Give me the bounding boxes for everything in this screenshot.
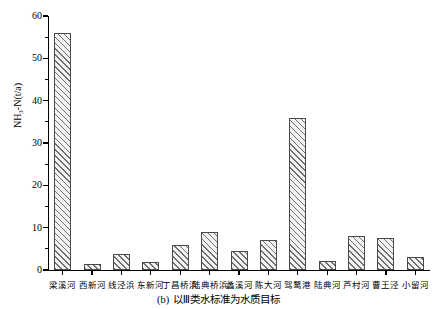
x-axis-tick — [415, 270, 416, 275]
bar — [260, 240, 277, 270]
bar — [142, 262, 159, 270]
x-axis-tick — [150, 270, 151, 275]
y-axis-tick-label: 50 — [2, 53, 42, 63]
x-axis-tick-label: 驾鹜港 — [284, 278, 311, 290]
x-axis-tick — [385, 270, 386, 275]
x-axis-tick-label: 东新河 — [137, 278, 164, 290]
y-axis-tick — [43, 15, 48, 16]
x-axis-tick — [238, 270, 239, 275]
x-axis-tick-label: 梁溪河 — [49, 278, 76, 290]
bar — [113, 254, 130, 270]
x-axis-tick-label: 小留河 — [402, 278, 429, 290]
y-axis-minor-tick — [45, 37, 48, 38]
x-axis-tick — [180, 270, 181, 275]
bar — [348, 236, 365, 270]
x-axis-tick-label: 曹王泾 — [372, 278, 399, 290]
y-axis-tick-label: 30 — [2, 138, 42, 148]
y-axis-tick — [43, 185, 48, 186]
x-axis-tick — [62, 270, 63, 275]
y-axis-tick-label: 40 — [2, 96, 42, 106]
x-axis-tick — [297, 270, 298, 275]
x-axis-tick-label: 陈大河 — [255, 278, 282, 290]
y-axis-line — [48, 16, 49, 270]
x-axis-tick — [209, 270, 210, 275]
y-axis-label-subscript: 3 — [17, 110, 25, 114]
bar — [201, 232, 218, 270]
y-axis-tick-label: 20 — [2, 180, 42, 190]
y-axis-tick-label: 0 — [2, 265, 42, 275]
y-axis-tick — [43, 100, 48, 101]
x-axis-tick — [268, 270, 269, 275]
y-axis-label-main: NH — [12, 114, 23, 128]
bar — [54, 33, 71, 270]
figure-caption-text: 以Ⅲ类水标准为水质目标 — [173, 293, 280, 305]
y-axis-minor-tick — [45, 121, 48, 122]
x-axis-tick — [121, 270, 122, 275]
bar — [231, 251, 248, 270]
y-axis-tick — [43, 142, 48, 143]
bar — [84, 264, 101, 270]
bar — [289, 118, 306, 270]
figure-caption: (b) 以Ⅲ类水标准为水质目标 — [0, 291, 437, 306]
y-axis-tick-label: 60 — [2, 11, 42, 21]
x-axis-tick-label: 陆典桥浜 — [192, 278, 228, 290]
y-axis-tick-label: 10 — [2, 223, 42, 233]
x-axis-tick — [327, 270, 328, 275]
bar — [377, 238, 394, 270]
bar-chart: NH3-N(t/a) 0102030405060 梁溪河西新河线泾浜东新河丁昌桥… — [0, 0, 437, 309]
plot-area: 0102030405060 梁溪河西新河线泾浜东新河丁昌桥浜陆典桥浜蠡溪河陈大河… — [48, 16, 430, 270]
x-axis-tick-label: 西新河 — [79, 278, 106, 290]
y-axis-tick — [43, 227, 48, 228]
x-axis-tick — [356, 270, 357, 275]
figure-caption-prefix: (b) — [157, 294, 169, 305]
y-axis-tick — [43, 269, 48, 270]
x-axis-tick-label: 芦村河 — [343, 278, 370, 290]
y-axis-minor-tick — [45, 248, 48, 249]
x-axis-tick — [91, 270, 92, 275]
y-axis-minor-tick — [45, 164, 48, 165]
y-axis-minor-tick — [45, 206, 48, 207]
x-axis-tick-label: 线泾浜 — [108, 278, 135, 290]
y-axis-minor-tick — [45, 79, 48, 80]
bar — [319, 261, 336, 270]
bar — [172, 245, 189, 270]
y-axis-tick — [43, 58, 48, 59]
x-axis-tick-label: 蠡溪河 — [226, 278, 253, 290]
bar — [407, 257, 424, 270]
x-axis-tick-label: 陆典河 — [314, 278, 341, 290]
